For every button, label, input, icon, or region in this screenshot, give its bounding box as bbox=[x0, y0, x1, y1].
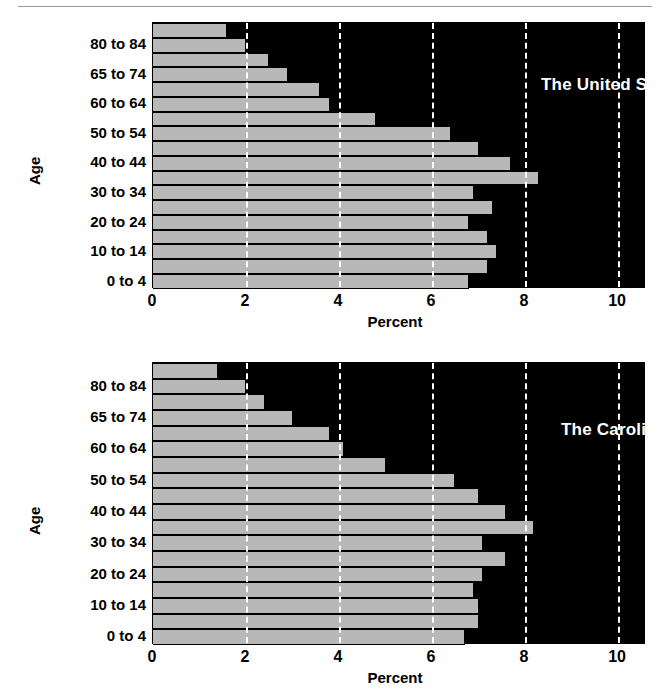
x-tick-label: 2 bbox=[241, 292, 250, 310]
y-tick-label: 10 to 14 bbox=[26, 242, 146, 259]
chart-title-carolinas: The Carolinas bbox=[561, 420, 662, 440]
x-tick-label: 8 bbox=[520, 292, 529, 310]
bar bbox=[153, 274, 469, 289]
y-tick-label: 0 to 4 bbox=[26, 272, 146, 289]
bar bbox=[153, 551, 506, 567]
y-tick-label: 20 to 24 bbox=[26, 565, 146, 582]
bar bbox=[153, 141, 479, 156]
x-tick-label: 2 bbox=[241, 648, 250, 666]
bar-row bbox=[153, 598, 644, 614]
y-tick-label: 30 to 34 bbox=[26, 533, 146, 550]
bar-row bbox=[153, 363, 644, 379]
y-tick-label: 60 to 64 bbox=[26, 94, 146, 111]
bar-row bbox=[153, 274, 644, 289]
gridline bbox=[432, 23, 434, 287]
x-tick-label: 10 bbox=[608, 648, 626, 666]
plot-area-carolinas: The Carolinas bbox=[152, 362, 645, 644]
bar-row bbox=[153, 97, 644, 112]
x-tick-label: 6 bbox=[427, 648, 436, 666]
y-tick-label: 30 to 34 bbox=[26, 183, 146, 200]
bar-row bbox=[153, 23, 644, 38]
y-tick-label: 20 to 24 bbox=[26, 213, 146, 230]
y-tick-label: 80 to 84 bbox=[26, 35, 146, 52]
y-tick-label: 60 to 64 bbox=[26, 439, 146, 456]
y-axis-ticks-carolinas: 80 to 8465 to 7460 to 6450 to 5440 to 44… bbox=[20, 362, 146, 644]
x-tick-label: 4 bbox=[334, 648, 343, 666]
bar bbox=[153, 457, 386, 473]
y-tick-label: 40 to 44 bbox=[26, 153, 146, 170]
bar-row bbox=[153, 520, 644, 536]
bar-row bbox=[153, 156, 644, 171]
bar-row bbox=[153, 38, 644, 53]
bar-row bbox=[153, 185, 644, 200]
y-tick-label: 65 to 74 bbox=[26, 408, 146, 425]
bar bbox=[153, 53, 269, 68]
bar-row bbox=[153, 259, 644, 274]
y-tick-label: 40 to 44 bbox=[26, 502, 146, 519]
gridline bbox=[246, 23, 248, 287]
y-tick-label: 65 to 74 bbox=[26, 65, 146, 82]
bar-row bbox=[153, 112, 644, 127]
bar bbox=[153, 441, 344, 457]
bar bbox=[153, 259, 488, 274]
bar-row bbox=[153, 551, 644, 567]
gridline bbox=[525, 23, 527, 287]
x-tick-label: 0 bbox=[148, 648, 157, 666]
bar bbox=[153, 629, 465, 645]
bar-row bbox=[153, 535, 644, 551]
bar-row bbox=[153, 379, 644, 395]
x-axis-ticks-carolinas: 0246810 bbox=[152, 648, 645, 668]
y-tick-label: 0 to 4 bbox=[26, 627, 146, 644]
bar bbox=[153, 410, 293, 426]
bar bbox=[153, 473, 455, 489]
bar bbox=[153, 23, 227, 38]
bar bbox=[153, 38, 246, 53]
x-axis-label-carolinas: Percent bbox=[315, 669, 475, 686]
bar-row bbox=[153, 582, 644, 598]
bar-row bbox=[153, 244, 644, 259]
bar-row bbox=[153, 171, 644, 186]
y-tick-label: 50 to 54 bbox=[26, 124, 146, 141]
bar-row bbox=[153, 488, 644, 504]
bar bbox=[153, 67, 288, 82]
y-axis-ticks-us: 80 to 8465 to 7460 to 6450 to 5440 to 44… bbox=[20, 22, 146, 288]
bar-row bbox=[153, 567, 644, 583]
x-tick-label: 6 bbox=[427, 292, 436, 310]
gridline bbox=[339, 363, 341, 643]
bar bbox=[153, 614, 479, 630]
bar bbox=[153, 97, 330, 112]
bar bbox=[153, 379, 246, 395]
bar-row bbox=[153, 473, 644, 489]
x-tick-label: 0 bbox=[148, 292, 157, 310]
bar bbox=[153, 426, 330, 442]
bar bbox=[153, 171, 539, 186]
bar bbox=[153, 200, 493, 215]
gridline bbox=[618, 23, 620, 287]
x-tick-label: 10 bbox=[608, 292, 626, 310]
bar-series-carolinas bbox=[153, 363, 644, 643]
bar-row bbox=[153, 394, 644, 410]
bar bbox=[153, 185, 474, 200]
chart-united-states: Age 80 to 8465 to 7460 to 6450 to 5440 t… bbox=[0, 0, 662, 340]
gridline bbox=[525, 363, 527, 643]
bar-row bbox=[153, 53, 644, 68]
bar bbox=[153, 112, 376, 127]
bar bbox=[153, 156, 511, 171]
x-axis-label-us: Percent bbox=[315, 313, 475, 330]
x-tick-label: 8 bbox=[520, 648, 529, 666]
chart-title-us: The United States bbox=[541, 75, 662, 95]
bar-row bbox=[153, 230, 644, 245]
bar-row bbox=[153, 629, 644, 645]
bar bbox=[153, 598, 479, 614]
bar bbox=[153, 215, 469, 230]
bar bbox=[153, 244, 497, 259]
bar bbox=[153, 520, 534, 536]
bar bbox=[153, 504, 506, 520]
gridline bbox=[432, 363, 434, 643]
gridline bbox=[618, 363, 620, 643]
bar-row bbox=[153, 614, 644, 630]
y-tick-label: 80 to 84 bbox=[26, 377, 146, 394]
y-tick-label: 50 to 54 bbox=[26, 471, 146, 488]
x-axis-ticks-us: 0246810 bbox=[152, 292, 645, 312]
bar bbox=[153, 82, 320, 97]
